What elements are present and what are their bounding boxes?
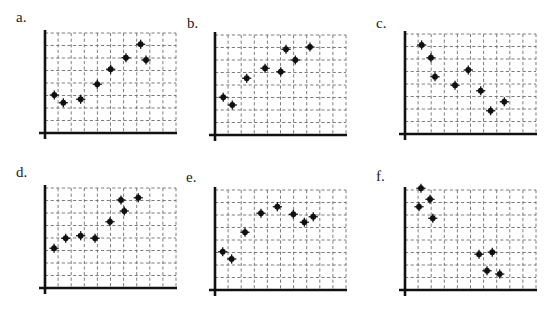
data-points — [219, 42, 315, 109]
data-points — [50, 40, 151, 108]
data-points — [218, 202, 318, 263]
data-point-marker — [464, 65, 473, 74]
data-point-marker — [50, 90, 59, 99]
data-point-marker — [242, 74, 251, 83]
data-point-marker — [488, 248, 497, 257]
data-point-marker — [256, 209, 265, 218]
data-point-marker — [106, 65, 115, 74]
scatter-plot-b — [207, 24, 356, 143]
scatter-plot-c — [397, 23, 546, 142]
data-point-marker — [121, 53, 130, 62]
panel-label-b: b. — [187, 16, 198, 31]
grid-lines — [405, 34, 536, 134]
data-point-marker — [430, 72, 439, 81]
data-point-marker — [49, 244, 58, 253]
data-point-marker — [134, 193, 143, 202]
data-point-marker — [474, 250, 483, 259]
scatter-plot-a — [37, 22, 186, 141]
grid-lines — [215, 190, 346, 290]
scatter-plot-f — [397, 176, 546, 298]
data-point-marker — [228, 100, 237, 109]
data-points — [414, 184, 504, 279]
data-point-marker — [240, 228, 249, 237]
scatter-plot-e — [207, 176, 356, 298]
data-point-marker — [120, 206, 129, 215]
data-point-marker — [291, 55, 300, 64]
data-point-marker — [289, 210, 298, 219]
data-point-marker — [136, 40, 145, 49]
data-point-marker — [450, 81, 459, 90]
data-point-marker — [105, 217, 114, 226]
panel-label-c: c. — [376, 16, 386, 31]
data-point-marker — [300, 218, 309, 227]
data-point-marker — [59, 98, 68, 107]
grid-lines — [215, 35, 346, 135]
panel-label-a: a. — [16, 10, 26, 25]
panel-label-d: d. — [16, 165, 27, 180]
scatter-plot-d — [37, 172, 186, 296]
data-point-marker — [486, 106, 495, 115]
grid-lines — [405, 190, 536, 290]
data-point-marker — [414, 202, 423, 211]
panel-label-e: e. — [186, 170, 196, 185]
data-point-marker — [93, 80, 102, 89]
data-point-marker — [116, 195, 125, 204]
data-points — [49, 193, 142, 253]
data-point-marker — [260, 64, 269, 73]
data-point-marker — [227, 254, 236, 263]
data-point-marker — [90, 234, 99, 243]
data-point-marker — [482, 266, 491, 275]
grid-lines — [45, 33, 176, 133]
data-point-marker — [500, 97, 509, 106]
data-point-marker — [309, 212, 318, 221]
data-point-marker — [141, 55, 150, 64]
panel-label-f: f. — [376, 169, 385, 184]
data-point-marker — [61, 234, 70, 243]
data-point-marker — [219, 93, 228, 102]
data-point-marker — [426, 53, 435, 62]
data-point-marker — [276, 67, 285, 76]
data-point-marker — [218, 247, 227, 256]
data-point-marker — [281, 45, 290, 54]
